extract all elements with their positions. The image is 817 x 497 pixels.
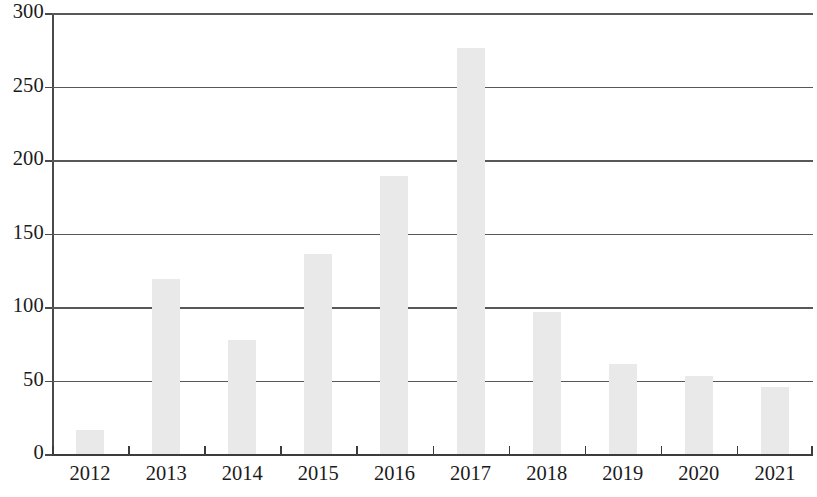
bar <box>228 340 256 455</box>
x-axis-tick <box>280 446 282 455</box>
bar <box>152 279 180 455</box>
x-axis-tick <box>509 446 511 455</box>
x-axis-tick-label: 2016 <box>374 462 415 485</box>
x-axis-tick-label: 2021 <box>754 462 795 485</box>
y-axis-tick-label: 200 <box>13 147 44 170</box>
bar <box>685 376 713 455</box>
x-axis-tick-label: 2017 <box>450 462 491 485</box>
bar <box>380 176 408 455</box>
y-axis-tick <box>45 13 52 15</box>
y-axis-tick <box>45 160 52 162</box>
y-axis-tick-label: 250 <box>13 74 44 97</box>
y-axis-labels: 050100150200250300 <box>0 0 44 497</box>
x-axis-tick <box>52 446 54 455</box>
bar <box>304 254 332 455</box>
y-axis-tick <box>45 381 52 383</box>
x-axis-tick <box>661 446 663 455</box>
x-axis-tick <box>811 446 813 455</box>
x-axis-tick-label: 2015 <box>298 462 339 485</box>
bar <box>609 364 637 455</box>
x-axis-tick <box>128 446 130 455</box>
x-axis-tick-label: 2014 <box>222 462 263 485</box>
x-axis-tick <box>433 446 435 455</box>
x-axis-tick <box>585 446 587 455</box>
bar <box>76 430 104 455</box>
bar <box>761 387 789 455</box>
bar <box>457 48 485 455</box>
y-axis-tick-label: 0 <box>34 441 44 464</box>
x-axis-tick <box>737 446 739 455</box>
y-axis-tick <box>45 87 52 89</box>
y-axis-tick-label: 150 <box>13 221 44 244</box>
bar-chart-figure: 050100150200250300 201220132014201520162… <box>0 0 817 497</box>
bar <box>533 312 561 455</box>
x-axis-tick-label: 2012 <box>70 462 111 485</box>
x-axis-tick-label: 2013 <box>146 462 187 485</box>
x-axis-tick-label: 2018 <box>526 462 567 485</box>
y-axis-tick-label: 50 <box>23 368 44 391</box>
y-axis-tick <box>45 307 52 309</box>
y-axis-tick <box>45 234 52 236</box>
x-axis-tick <box>204 446 206 455</box>
x-axis-tick-label: 2019 <box>602 462 643 485</box>
y-axis-tick-label: 300 <box>13 0 44 23</box>
x-axis-tick-label: 2020 <box>678 462 719 485</box>
bar-series <box>52 14 813 455</box>
y-axis-tick <box>45 454 52 456</box>
x-axis-tick <box>356 446 358 455</box>
y-axis-tick-label: 100 <box>13 294 44 317</box>
